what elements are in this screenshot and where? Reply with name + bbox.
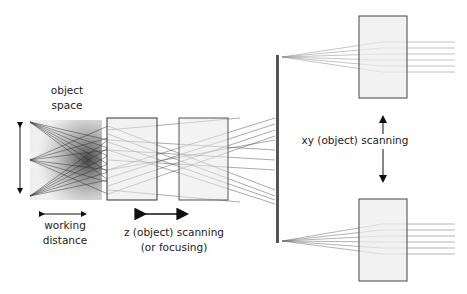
object-space-line2: space [44, 98, 90, 113]
xy-scanning-label: xy (object) scanning [298, 133, 412, 148]
working-distance-line1: working [38, 218, 92, 233]
lens-box-2 [179, 118, 228, 200]
lens-box-bottom-right [359, 199, 407, 281]
z-scanning-line1: z (object) scanning [115, 225, 233, 240]
z-scanning-label: z (object) scanning (or focusing) [115, 225, 233, 255]
object-space-line1: object [44, 83, 90, 98]
lens-box-top-right [359, 16, 407, 98]
lens-box-1 [107, 118, 157, 200]
working-distance-label: working distance [38, 218, 92, 248]
scan-mirror [276, 55, 279, 243]
working-distance-line2: distance [38, 233, 92, 248]
optical-scanning-diagram: object space working distance z (object)… [0, 0, 467, 294]
z-scanning-line2: (or focusing) [115, 240, 233, 255]
object-space-label: object space [44, 83, 90, 113]
